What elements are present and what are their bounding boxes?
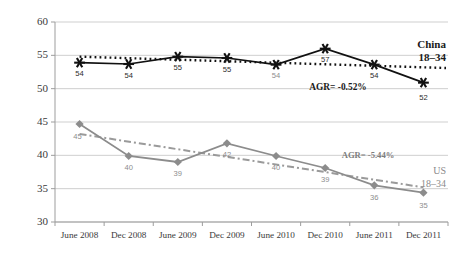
legend-label-china-age: 18–34 bbox=[419, 51, 447, 63]
china-agr-annotation: AGR= -0.52% bbox=[309, 82, 366, 92]
china-point-label: 54 bbox=[75, 69, 83, 78]
us-point-label: 39 bbox=[174, 169, 182, 178]
y-tick-label: 30 bbox=[37, 215, 49, 227]
x-tick-label: June 2010 bbox=[257, 230, 295, 240]
china-point-label: 57 bbox=[321, 55, 329, 64]
china-point-label: 54 bbox=[124, 71, 132, 80]
x-tick-label: June 2011 bbox=[356, 230, 394, 240]
chart-background bbox=[0, 0, 452, 262]
y-tick-label: 45 bbox=[37, 115, 49, 127]
y-tick-label: 50 bbox=[37, 82, 49, 94]
us-point-label: 45 bbox=[73, 132, 81, 141]
us-point-label: 40 bbox=[272, 163, 280, 172]
y-tick-label: 35 bbox=[37, 182, 49, 194]
china-point-label: 52 bbox=[419, 93, 427, 102]
us-point-label: 42 bbox=[223, 150, 231, 159]
us-point-label: 35 bbox=[419, 201, 427, 210]
us-point-label: 36 bbox=[370, 193, 378, 202]
legend-label-us-age: 18–34 bbox=[421, 178, 446, 189]
y-tick-label: 40 bbox=[37, 148, 49, 160]
legend-label-us: US bbox=[433, 165, 446, 176]
x-tick-label: June 2009 bbox=[159, 230, 197, 240]
x-tick-label: June 2008 bbox=[61, 230, 99, 240]
x-tick-label: Dec 2009 bbox=[209, 230, 245, 240]
legend-label-china: China bbox=[417, 38, 446, 50]
x-tick-label: Dec 2011 bbox=[406, 230, 442, 240]
china-point-label: 54 bbox=[370, 71, 378, 80]
us-point-label: 40 bbox=[124, 163, 132, 172]
china-point-label: 54 bbox=[272, 71, 280, 80]
y-tick-label: 60 bbox=[37, 15, 49, 27]
line-chart: 30354045505560 June 2008Dec 2008June 200… bbox=[0, 0, 452, 262]
china-point-label: 55 bbox=[174, 63, 182, 72]
x-tick-label: Dec 2010 bbox=[307, 230, 343, 240]
us-agr-annotation: AGR= -5.44% bbox=[342, 150, 395, 160]
china-point-label: 55 bbox=[223, 65, 231, 74]
us-point-label: 39 bbox=[321, 175, 329, 184]
x-tick-label: Dec 2008 bbox=[111, 230, 147, 240]
y-tick-label: 55 bbox=[37, 48, 49, 60]
chart-container: 30354045505560 June 2008Dec 2008June 200… bbox=[0, 0, 452, 262]
